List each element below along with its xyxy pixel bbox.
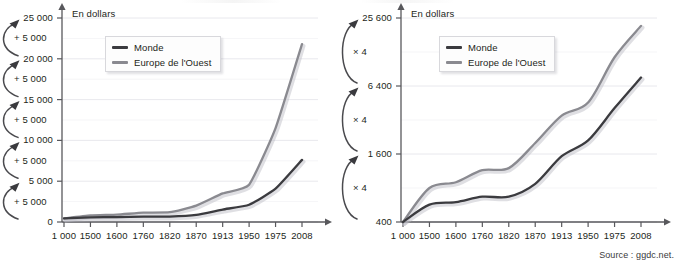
legend-label: Europe de l'Ouest (134, 57, 211, 68)
scale-step-annotation: × 4 (353, 182, 367, 193)
y-axis-caption: En dollars (72, 8, 115, 19)
scale-step-annotation: × 4 (353, 46, 367, 57)
y-axis-tick-label: 20 000 (0, 53, 53, 64)
legend-swatch-icon (112, 46, 128, 49)
legend-swatch-icon (446, 61, 462, 64)
y-axis-tick-label: 0 (0, 216, 53, 227)
y-axis-tick-label: 400 (339, 216, 392, 227)
legend-panel: MondeEurope de l'Ouest (105, 36, 221, 72)
legend-panel: MondeEurope de l'Ouest (439, 36, 555, 72)
legend-label: Monde (134, 42, 164, 53)
legend-item-monde: Monde (112, 42, 164, 53)
source-note: Source : ggdc.net. (599, 250, 674, 260)
log-scale-chart-panel: En dollars MondeEurope de l'Ouest 4001 6… (339, 0, 678, 248)
y-axis-tick-label: 1 600 (339, 148, 392, 159)
legend-item-europe: Europe de l'Ouest (446, 57, 545, 68)
scale-step-annotation: × 4 (353, 114, 367, 125)
scale-step-annotation: + 5 000 (14, 155, 47, 166)
legend-swatch-icon (446, 46, 462, 49)
y-axis-tick-label: 6 400 (339, 80, 392, 91)
scale-step-annotation: + 5 000 (14, 114, 47, 125)
y-axis-tick-label: 10 000 (0, 134, 53, 145)
x-axis-tick-label: 2008 (619, 230, 663, 241)
linear-scale-chart-panel: En dollars MondeEurope de l'Ouest 05 000… (0, 0, 339, 248)
y-axis-caption: En dollars (411, 8, 454, 19)
legend-label: Europe de l'Ouest (468, 57, 545, 68)
gdp-per-capita-figure: En dollars MondeEurope de l'Ouest 05 000… (0, 0, 678, 262)
y-axis-tick-label: 25 000 (0, 12, 53, 23)
scale-step-annotation: + 5 000 (14, 73, 47, 84)
legend-swatch-icon (112, 61, 128, 64)
y-axis-tick-label: 15 000 (0, 94, 53, 105)
legend-item-europe: Europe de l'Ouest (112, 57, 211, 68)
y-axis-tick-label: 25 600 (339, 12, 392, 23)
scale-step-annotation: + 5 000 (14, 32, 47, 43)
y-axis-tick-label: 5 000 (0, 175, 53, 186)
x-axis-tick-label: 2008 (280, 230, 324, 241)
legend-label: Monde (468, 42, 498, 53)
scale-step-annotation: + 5 000 (14, 196, 47, 207)
legend-item-monde: Monde (446, 42, 498, 53)
